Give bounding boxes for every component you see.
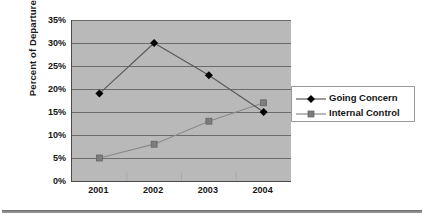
- x-tick-label: 2001: [71, 186, 126, 195]
- y-tick-label: 0%: [32, 177, 66, 186]
- plot-svg: [72, 20, 291, 181]
- gridlines: [72, 21, 291, 159]
- y-tick-label: 15%: [32, 108, 66, 117]
- legend-item-internal-control: Internal Control: [296, 105, 400, 119]
- chart-container: Percent of Departures 35% 30% 25% 20% 15…: [0, 0, 424, 221]
- plot-area: [71, 20, 291, 182]
- x-tick-label: 2003: [181, 186, 236, 195]
- legend-label: Going Concern: [329, 92, 398, 103]
- legend-marker-square-icon: [296, 106, 326, 118]
- legend-marker-diamond-icon: [296, 91, 326, 103]
- series-line-internal-control: [99, 103, 263, 158]
- x-axis-tick-labels: 2001 2002 2003 2004: [71, 186, 290, 204]
- x-tick-label: 2002: [126, 186, 181, 195]
- y-tick-label: 20%: [32, 85, 66, 94]
- bottom-divider: [2, 210, 422, 213]
- y-axis-tick-labels: 35% 30% 25% 20% 15% 10% 5% 0%: [28, 0, 66, 221]
- y-tick-label: 10%: [32, 131, 66, 140]
- series-line-going-concern: [99, 43, 263, 112]
- series-markers-going-concern: [95, 39, 267, 116]
- y-tick-label: 25%: [32, 62, 66, 71]
- legend-label: Internal Control: [329, 107, 400, 118]
- chart-legend: Going Concern Internal Control: [291, 86, 415, 122]
- y-tick-label: 30%: [32, 39, 66, 48]
- legend-item-going-concern: Going Concern: [296, 90, 398, 104]
- y-tick-label: 35%: [32, 16, 66, 25]
- y-tick-label: 5%: [32, 154, 66, 163]
- category-separators: [127, 172, 237, 181]
- x-tick-label: 2004: [235, 186, 290, 195]
